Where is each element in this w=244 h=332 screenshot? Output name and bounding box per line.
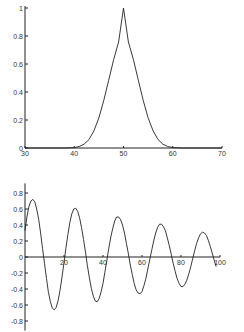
y-tick-label: 0 <box>19 254 23 261</box>
y-tick-label: 0.4 <box>13 89 23 96</box>
y-tick-label: -0.2 <box>11 270 23 277</box>
y-tick-label: -0.8 <box>11 318 23 325</box>
x-tick-label: 80 <box>177 259 185 266</box>
y-tick-label: -0.4 <box>11 286 23 293</box>
y-tick-label: 0.6 <box>13 206 23 213</box>
y-tick-label: 1 <box>19 5 23 12</box>
y-tick-label: -0.6 <box>11 302 23 309</box>
y-tick-label: 0.2 <box>13 238 23 245</box>
gaussian-curve <box>25 8 222 148</box>
y-tick-label: 0.4 <box>13 222 23 229</box>
y-tick-label: 0.8 <box>13 33 23 40</box>
x-tick-label: 40 <box>70 150 78 157</box>
figure: 304050607000.20.40.60.81 204060801000.80… <box>0 0 244 332</box>
x-tick-label: 60 <box>138 259 146 266</box>
damped-oscillation-chart: 204060801000.80.60.40.20-0.2-0.4-0.6-0.8 <box>11 183 226 330</box>
x-tick-label: 60 <box>169 150 177 157</box>
y-tick-label: 0.8 <box>13 190 23 197</box>
y-tick-label: 0 <box>19 145 23 152</box>
damped-oscillation-curve <box>25 199 216 309</box>
x-tick-label: 50 <box>120 150 128 157</box>
gaussian-chart: 304050607000.20.40.60.81 <box>13 5 226 158</box>
y-tick-label: 0.6 <box>13 61 23 68</box>
y-tick-label: 0.2 <box>13 117 23 124</box>
x-tick-label: 70 <box>218 150 226 157</box>
